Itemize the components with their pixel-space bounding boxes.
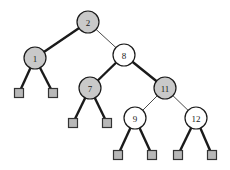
- binary-tree-diagram: 218711912: [0, 0, 230, 170]
- node-label: 12: [192, 114, 201, 124]
- node-label: 2: [86, 18, 91, 28]
- leaf-node: [114, 151, 123, 160]
- leaf-node: [15, 89, 24, 98]
- node-label: 1: [33, 54, 38, 64]
- tree-node-9: 9: [124, 107, 146, 129]
- leaf-node: [49, 89, 58, 98]
- leaf-node: [148, 151, 157, 160]
- tree-node-11: 11: [154, 77, 176, 99]
- node-label: 11: [161, 84, 170, 94]
- tree-node-1: 1: [24, 47, 46, 69]
- node-label: 8: [122, 51, 127, 61]
- tree-node-12: 12: [185, 107, 207, 129]
- leaf-node: [208, 151, 217, 160]
- tree-node-2: 2: [77, 11, 99, 33]
- tree-canvas: 218711912: [0, 0, 230, 170]
- leaf-node: [69, 119, 78, 128]
- tree-node-8: 8: [113, 44, 135, 66]
- node-label: 9: [133, 114, 138, 124]
- node-label: 7: [88, 84, 93, 94]
- nodes-layer: 218711912: [24, 11, 207, 129]
- tree-node-7: 7: [79, 77, 101, 99]
- leaf-node: [174, 151, 183, 160]
- leaf-node: [103, 119, 112, 128]
